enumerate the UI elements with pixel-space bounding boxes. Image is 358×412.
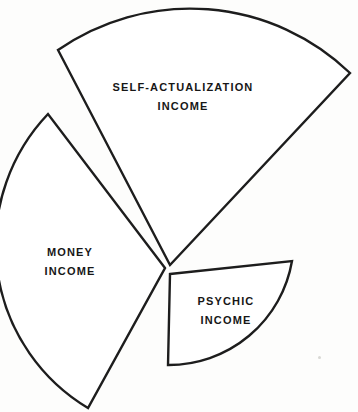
pie-slice-label-psychic-income: PSYCHIC INCOME bbox=[172, 292, 280, 330]
pie-slice-label-self-actualization-income: SELF-ACTUALIZATION INCOME bbox=[0, 78, 358, 116]
pie-slice-label-money-income: MONEY INCOME bbox=[16, 243, 124, 281]
pie-slice-label-self-actualization-income-line-1: SELF-ACTUALIZATION bbox=[8, 78, 358, 97]
pie-slice-label-self-actualization-income-line-2: INCOME bbox=[8, 97, 358, 116]
pie-diagram-figure: SELF-ACTUALIZATION INCOME MONEY INCOME P… bbox=[0, 0, 358, 412]
scan-artifact-speck bbox=[318, 356, 321, 359]
pie-slice-label-psychic-income-line-2: INCOME bbox=[172, 311, 280, 330]
pie-chart-svg bbox=[0, 0, 358, 412]
pie-slice-label-money-income-line-2: INCOME bbox=[16, 262, 124, 281]
pie-slice-label-psychic-income-line-1: PSYCHIC bbox=[172, 292, 280, 311]
pie-slice-label-money-income-line-1: MONEY bbox=[16, 243, 124, 262]
